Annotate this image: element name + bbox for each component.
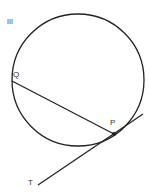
figure-label: III <box>7 18 13 25</box>
point-p-dot <box>112 132 116 136</box>
chord-qp <box>12 81 114 134</box>
circle-tangent-diagram <box>0 0 149 192</box>
label-p: P <box>110 118 115 127</box>
label-q: Q <box>13 70 19 79</box>
tangent-line <box>38 114 143 185</box>
label-t: T <box>28 178 33 187</box>
